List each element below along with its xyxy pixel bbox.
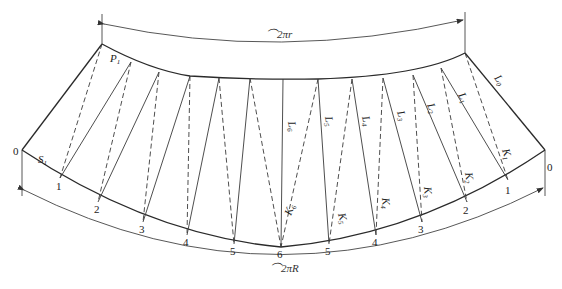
triangulation-lines <box>60 44 508 247</box>
solid-line <box>98 72 159 202</box>
label-K6: K6 <box>281 202 298 218</box>
label-K1: K1 <box>498 146 515 162</box>
point-label-right-0: 0 <box>547 161 553 173</box>
solid-line-L6 <box>281 79 283 247</box>
label-L3: L3 <box>393 108 410 123</box>
label-S1: S1 <box>38 153 47 167</box>
dashed-line <box>60 44 102 178</box>
solid-line <box>60 62 131 178</box>
point-label-left-3: 3 <box>139 223 145 235</box>
solid-line <box>187 78 219 235</box>
label-K4: K4 <box>378 196 393 210</box>
label-L2: L2 <box>423 100 440 116</box>
point-label-right-4: 4 <box>372 236 378 248</box>
solid-line-L5 <box>318 79 329 244</box>
dashed-line <box>98 62 131 202</box>
top-arc-edge <box>102 44 465 79</box>
solid-line-L4 <box>352 79 376 235</box>
point-label-left-4: 4 <box>183 236 189 248</box>
point-label-right-2: 2 <box>463 204 469 216</box>
dashed-line <box>143 72 159 222</box>
point-label-left-2: 2 <box>94 203 100 215</box>
dashed-line-K4 <box>376 78 383 235</box>
label-L5: L5 <box>321 114 337 127</box>
label-P1: P1 <box>109 52 120 66</box>
dashed-line <box>219 78 234 244</box>
label-K5: K5 <box>334 210 351 226</box>
dashed-line-K6 <box>281 79 318 247</box>
development-diagram: ⌒2πr ⌒2πR P1 S1 0 <box>0 0 562 289</box>
label-L4: L4 <box>358 114 374 128</box>
point-label-right-3: 3 <box>418 223 424 235</box>
label-K2: K2 <box>461 170 477 185</box>
solid-line <box>234 78 250 244</box>
point-label-left-5: 5 <box>230 245 236 257</box>
dashed-line <box>187 76 190 235</box>
point-label-right-5: 5 <box>325 245 331 257</box>
label-L6: L6 <box>284 119 300 132</box>
label-K3: K3 <box>420 185 435 199</box>
left-seam-edge <box>22 44 102 150</box>
point-label-left-1: 1 <box>56 180 62 192</box>
dashed-line <box>250 78 281 247</box>
point-label-left-0: 0 <box>13 145 19 157</box>
right-seam-edge-L0 <box>465 53 545 150</box>
solid-line <box>143 76 190 222</box>
dashed-line-K3 <box>413 75 422 222</box>
point-label-right-1: 1 <box>505 184 511 196</box>
bottom-arc-label: ⌒2πR <box>270 262 299 274</box>
point-label-center-6: 6 <box>277 248 283 260</box>
top-arc-label: ⌒2πr <box>266 28 293 40</box>
label-L1: L1 <box>454 89 471 105</box>
